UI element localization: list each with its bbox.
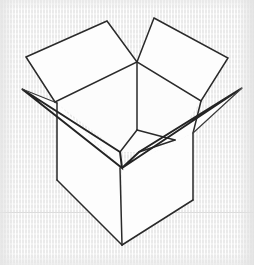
rim-left-to-body bbox=[55, 102, 57, 180]
box-filled-faces bbox=[22, 18, 242, 245]
image-canvas bbox=[0, 0, 254, 265]
open-box-line-drawing bbox=[0, 0, 254, 265]
